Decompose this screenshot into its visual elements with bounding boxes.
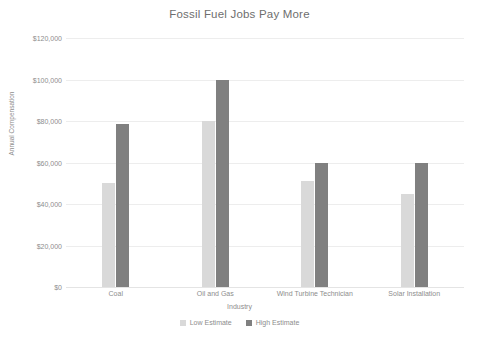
x-axis-tick-label: Coal [109, 290, 123, 297]
y-axis-title: Annual Compensation [8, 64, 15, 184]
bar-group [202, 38, 229, 287]
x-axis-tick-labels: CoalOil and GasWind Turbine TechnicianSo… [66, 290, 464, 304]
bar[interactable] [415, 163, 428, 288]
legend-swatch-icon [246, 320, 252, 326]
bar[interactable] [202, 121, 215, 287]
bar[interactable] [301, 181, 314, 287]
bar[interactable] [401, 194, 414, 287]
chart-title: Fossil Fuel Jobs Pay More [0, 8, 479, 20]
y-axis-tick-label: $20,000 [2, 242, 62, 249]
legend-label: High Estimate [256, 319, 300, 326]
x-axis-tick-label: Solar Installation [388, 290, 440, 297]
chart-legend: Low EstimateHigh Estimate [0, 319, 479, 326]
y-axis-tick-label: $120,000 [2, 35, 62, 42]
bar-group [401, 38, 428, 287]
x-axis-tick-label: Wind Turbine Technician [277, 290, 353, 297]
legend-item[interactable]: Low Estimate [180, 319, 232, 326]
bar[interactable] [216, 80, 229, 288]
legend-item[interactable]: High Estimate [246, 319, 300, 326]
y-axis-tick-label: $40,000 [2, 201, 62, 208]
legend-swatch-icon [180, 320, 186, 326]
y-axis-tick-label: $0 [2, 284, 62, 291]
bar-group [301, 38, 328, 287]
legend-label: Low Estimate [190, 319, 232, 326]
bar-group [102, 38, 129, 287]
bar[interactable] [102, 183, 115, 287]
x-axis-tick-label: Oil and Gas [197, 290, 234, 297]
gridline [66, 287, 464, 288]
plot-area [66, 38, 464, 287]
bar[interactable] [116, 124, 129, 287]
x-axis-title: Industry [0, 303, 479, 310]
bar-chart-figure: Fossil Fuel Jobs Pay More $0$20,000$40,0… [0, 0, 479, 351]
bar[interactable] [315, 163, 328, 288]
